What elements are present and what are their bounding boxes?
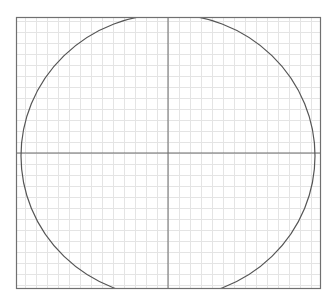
diagram-canvas [0, 0, 336, 305]
